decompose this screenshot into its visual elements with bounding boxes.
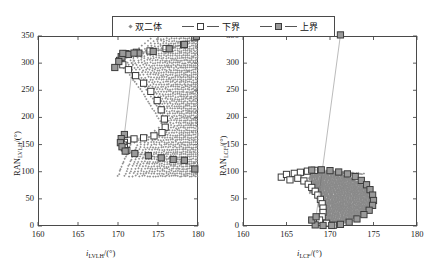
- lower-bound-marker: [151, 133, 157, 139]
- upper-bound-marker: [354, 216, 360, 222]
- y-tick-label: 50: [217, 193, 239, 203]
- x-tick-label: 160: [229, 229, 257, 239]
- x-tick-label: 160: [24, 229, 52, 239]
- upper-bound-marker: [337, 32, 343, 38]
- upper-bound-marker: [150, 48, 156, 54]
- upper-bound-marker: [145, 153, 151, 159]
- lower-bound-marker: [141, 135, 147, 141]
- legend-line-right-icon: [207, 26, 219, 27]
- y-tick-label: 300: [12, 57, 34, 67]
- x-tick-label: 165: [273, 229, 301, 239]
- lower-bound-marker: [287, 177, 293, 183]
- left-x-axis-label: iLVLH/(°): [86, 248, 115, 259]
- legend-entry-lower-bound: 下界: [182, 20, 240, 33]
- upper-bound-marker: [337, 221, 343, 227]
- legend-line-right-icon-2: [285, 26, 297, 27]
- upper-bound-marker: [352, 174, 358, 180]
- lower-bound-marker: [295, 175, 301, 181]
- upper-bound-marker: [346, 219, 352, 225]
- diamond-dot-icon: [128, 24, 132, 28]
- figure-root: 050100150200250300350160165170175180 RAN…: [0, 0, 441, 271]
- y-tick-label: 300: [217, 57, 239, 67]
- chart-legend: 双二体 下界 上界: [112, 16, 335, 37]
- upper-bound-marker: [166, 46, 172, 52]
- lower-bound-marker: [297, 169, 303, 175]
- x-tick-label: 180: [403, 229, 431, 239]
- upper-bound-marker: [318, 167, 324, 173]
- upper-bound-marker: [122, 148, 128, 154]
- upper-bound-marker: [320, 222, 326, 228]
- upper-bound-marker: [131, 50, 137, 56]
- filled-square-icon: [275, 23, 282, 30]
- upper-bound-marker: [344, 171, 350, 177]
- upper-bound-marker: [116, 58, 122, 64]
- y-tick-label: 250: [12, 84, 34, 94]
- upper-bound-marker: [329, 222, 335, 228]
- upper-bound-marker: [181, 157, 187, 163]
- lower-bound-marker: [161, 116, 167, 122]
- upper-bound-marker: [158, 155, 164, 161]
- x-tick-label: 175: [144, 229, 172, 239]
- lower-bound-marker: [148, 88, 154, 94]
- lower-bound-marker: [159, 130, 165, 136]
- lower-bound-marker: [133, 73, 139, 79]
- right-plot-canvas: [243, 36, 417, 226]
- y-tick-label: 200: [217, 111, 239, 121]
- y-tick-label: 350: [12, 30, 34, 40]
- lower-bound-marker: [125, 67, 131, 73]
- upper-bound-marker: [181, 41, 187, 47]
- left-y-axis-label: RANLVLH/(°): [12, 131, 23, 176]
- lower-bound-marker: [141, 80, 147, 86]
- upper-bound-marker: [327, 168, 333, 174]
- legend-line-left-icon: [182, 26, 194, 27]
- x-tick-label: 165: [64, 229, 92, 239]
- right-y-axis-label: RANLCF/(°): [218, 136, 229, 176]
- x-tick-label: 170: [104, 229, 132, 239]
- x-tick-label: 180: [184, 229, 212, 239]
- upper-bound-marker: [132, 150, 138, 156]
- legend-entry-scatter: 双二体: [129, 20, 162, 33]
- x-tick-label: 175: [360, 229, 388, 239]
- lower-bound-marker: [154, 98, 160, 104]
- y-tick-label: 50: [12, 193, 34, 203]
- legend-label-scatter: 双二体: [135, 20, 162, 33]
- right-x-axis-label: iLCF/(°): [297, 248, 322, 259]
- open-square-icon: [197, 23, 204, 30]
- y-tick-label: 200: [12, 111, 34, 121]
- y-tick-label: 250: [217, 84, 239, 94]
- upper-bound-marker: [170, 156, 176, 162]
- left-plot-canvas: [38, 36, 198, 226]
- upper-bound-marker: [361, 212, 367, 218]
- upper-bound-marker: [313, 214, 319, 220]
- upper-bound-marker: [309, 167, 315, 173]
- legend-label-upper-bound: 上界: [300, 20, 318, 33]
- upper-bound-marker: [120, 50, 126, 56]
- x-tick-label: 170: [316, 229, 344, 239]
- lower-bound-marker: [158, 107, 164, 113]
- legend-entry-upper-bound: 上界: [260, 20, 318, 33]
- upper-bound-marker: [192, 166, 198, 172]
- upper-bound-marker: [336, 169, 342, 175]
- lower-bound-marker: [131, 136, 137, 142]
- upper-bound-marker: [112, 64, 118, 70]
- legend-line-left-icon-2: [260, 26, 272, 27]
- legend-label-lower-bound: 下界: [222, 20, 240, 33]
